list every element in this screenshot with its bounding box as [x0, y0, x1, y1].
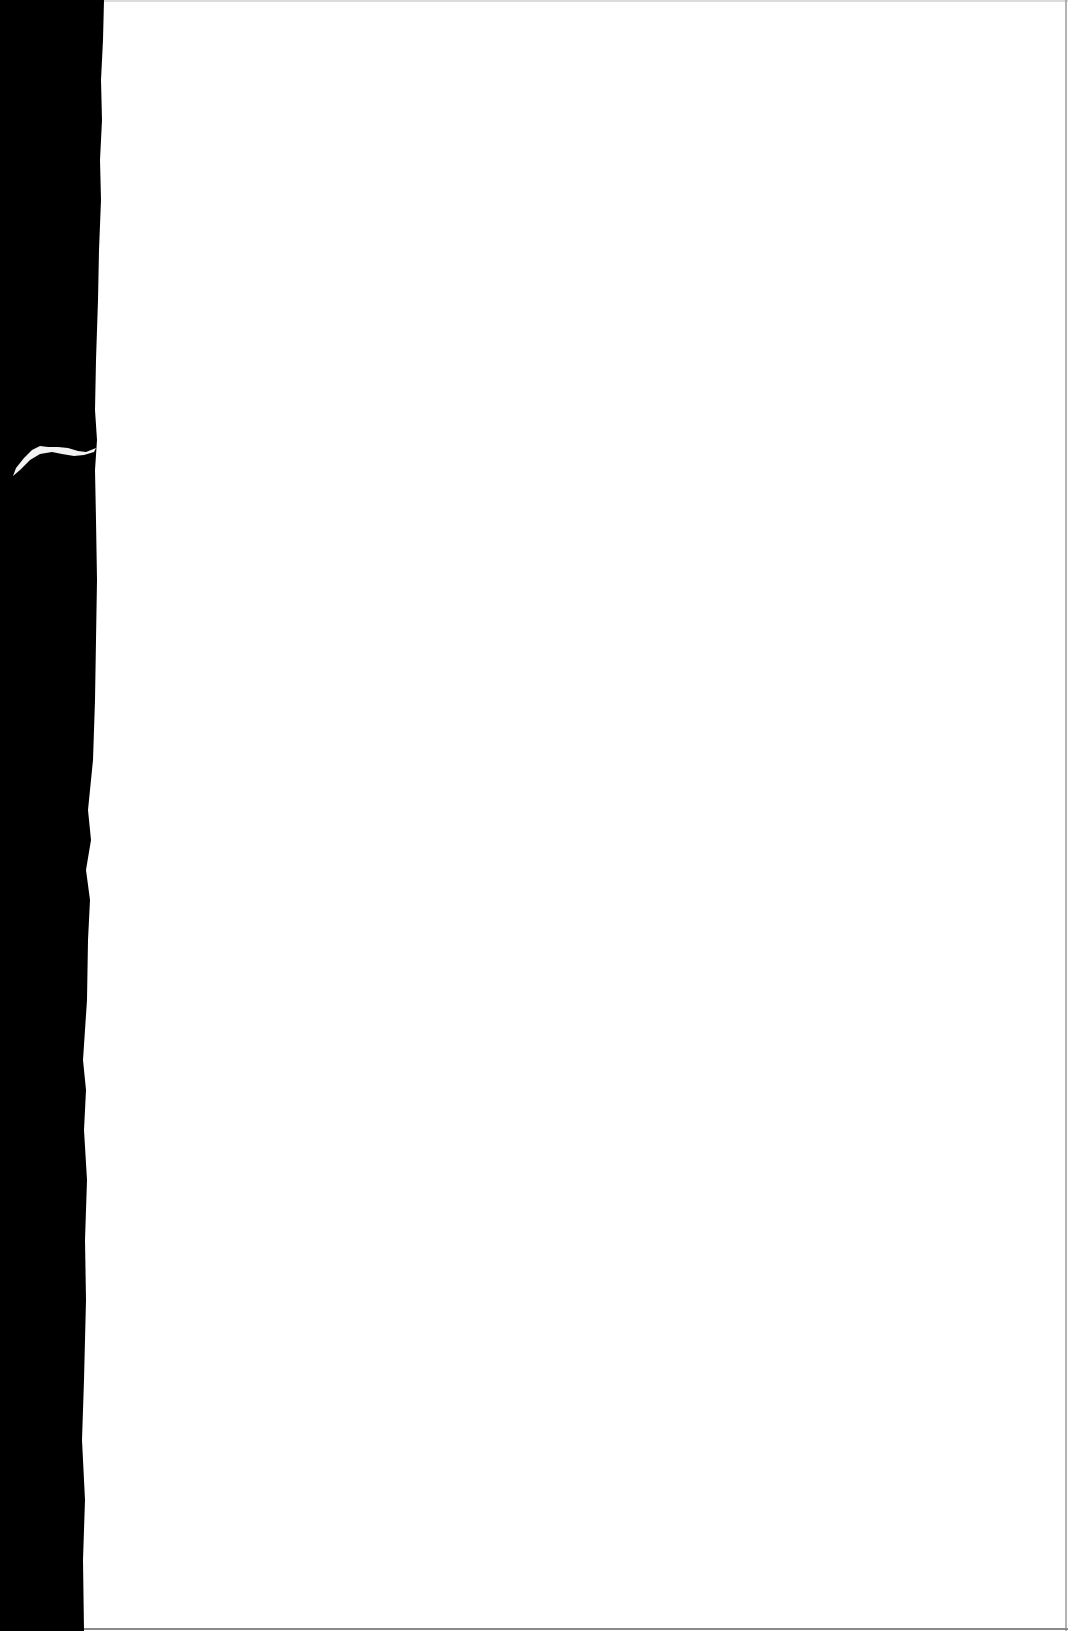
paper-sheet	[82, 0, 1068, 1631]
torn-paper-scrap	[13, 446, 96, 476]
blank-paper-page	[0, 0, 1068, 1631]
scan-background	[0, 0, 1068, 1631]
